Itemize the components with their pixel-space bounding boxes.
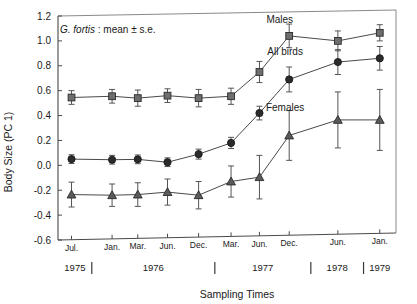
- y-tick-label: 0.4: [37, 110, 51, 121]
- data-point-marker: [164, 159, 171, 166]
- series-label-all-birds: All birds: [267, 46, 303, 57]
- year-group-label: 1976: [143, 262, 164, 273]
- x-tick-label: Jan.: [372, 236, 388, 246]
- y-tick-label: 0.2: [37, 135, 51, 146]
- y-tick-label: 0.8: [37, 60, 51, 71]
- data-point-marker: [68, 94, 75, 101]
- data-point-marker: [376, 29, 383, 36]
- data-point-marker: [376, 55, 383, 62]
- data-point-marker: [255, 173, 264, 181]
- x-tick-label: Jun.: [159, 241, 175, 251]
- x-tick-label: Mar.: [130, 241, 147, 251]
- y-tick-label: 1.2: [37, 11, 51, 22]
- data-point-marker: [163, 188, 172, 196]
- y-tick-label: 0.6: [37, 85, 51, 96]
- data-point-marker: [334, 58, 341, 65]
- x-axis-ticks: Jul.Jan.Mar.Jun.Dec.Mar.Jun.Dec.Jun.Jan.: [65, 229, 388, 252]
- data-point-marker: [228, 93, 235, 100]
- data-point-marker: [256, 69, 263, 76]
- data-point-marker: [164, 92, 171, 99]
- y-tick-label: -0.6: [34, 235, 52, 246]
- data-series-layer: [67, 24, 384, 209]
- data-point-marker: [134, 156, 141, 163]
- x-tick-label: Jun.: [251, 239, 267, 249]
- y-tick-label: -0.2: [34, 185, 52, 196]
- data-point-marker: [334, 37, 341, 44]
- data-point-marker: [195, 95, 202, 102]
- species-name: G. fortis: [60, 24, 95, 35]
- y-tick-label: -0.4: [34, 210, 52, 221]
- data-point-marker: [67, 190, 76, 198]
- data-point-marker: [256, 109, 263, 116]
- year-group-label: 1975: [64, 262, 85, 273]
- y-axis-title: Body Size (PC 1): [2, 112, 14, 193]
- figure-container: -0.6-0.4-0.20.00.20.40.60.81.01.2 Jul.Ja…: [0, 0, 417, 304]
- series-line: [72, 58, 380, 162]
- data-point-marker: [108, 156, 115, 163]
- x-tick-label: Jan.: [104, 242, 120, 252]
- data-point-marker: [68, 156, 75, 163]
- series-all-birds: [68, 46, 383, 166]
- x-tick-label: Mar.: [223, 239, 240, 249]
- x-tick-label: Jul.: [65, 243, 78, 253]
- data-point-marker: [109, 93, 116, 100]
- y-tick-label: 1.0: [37, 35, 51, 46]
- series-females: [67, 89, 384, 208]
- data-point-marker: [195, 151, 202, 158]
- y-tick-label: 0.0: [37, 160, 51, 171]
- data-point-marker: [134, 95, 141, 102]
- series-line: [72, 33, 380, 98]
- data-point-marker: [286, 33, 293, 40]
- annotation-rest: : mean ± s.e.: [95, 24, 156, 35]
- plot-frame: [58, 10, 396, 240]
- year-group-label: 1978: [327, 262, 348, 273]
- data-point-marker: [286, 76, 293, 83]
- year-group-label: 1979: [369, 262, 390, 273]
- series-label-layer: MalesAll birdsFemales: [266, 14, 304, 113]
- series-label-males: Males: [266, 14, 293, 25]
- x-axis-title: Sampling Times: [200, 288, 275, 300]
- data-point-marker: [227, 139, 234, 146]
- figure-annotation: G. fortis : mean ± s.e.: [60, 24, 156, 35]
- year-group-layer: 19751976197719781979: [64, 262, 390, 274]
- year-group-label: 1977: [252, 262, 273, 273]
- x-tick-label: Dec.: [280, 238, 297, 248]
- x-tick-label: Dec.: [190, 240, 207, 250]
- x-tick-label: Jun.: [330, 237, 346, 247]
- series-label-females: Females: [266, 102, 304, 113]
- series-line: [72, 120, 380, 195]
- body-size-line-chart: -0.6-0.4-0.20.00.20.40.60.81.01.2 Jul.Ja…: [0, 0, 417, 304]
